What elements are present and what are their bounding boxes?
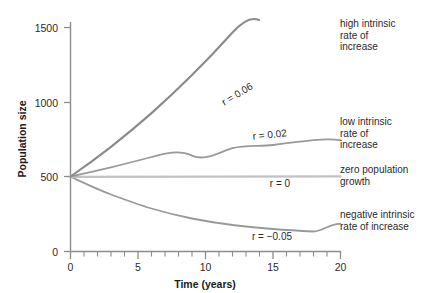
- y-axis-title: Population size: [16, 100, 28, 177]
- x-tick-marks: [71, 252, 341, 260]
- curve-group: [71, 19, 341, 232]
- curve-label-negative: r = −0.05: [252, 231, 292, 242]
- curve-label-zero: r = 0: [270, 178, 291, 189]
- x-tick-label-15: 15: [267, 261, 279, 273]
- annotation-high-intrinsic: high intrinsic rate of increase: [340, 18, 396, 53]
- curve-low-r: [71, 139, 341, 176]
- chart-figure: 1500 1000 500 0: [0, 0, 431, 293]
- y-tick-labels: 1500 1000 500 0: [35, 22, 59, 258]
- y-tick-label-1500: 1500: [35, 22, 59, 34]
- y-tick-label-0: 0: [52, 246, 58, 258]
- axis-group: [71, 22, 342, 252]
- annotation-negative-intrinsic: negative intrinsic rate of increase: [340, 209, 414, 232]
- x-tick-labels: 0 5 10 15 20: [68, 261, 347, 273]
- y-tick-label-1000: 1000: [35, 97, 59, 109]
- x-axis-title: Time (years): [174, 278, 236, 290]
- curve-label-low: r = 0.02: [252, 127, 288, 142]
- x-tick-label-20: 20: [335, 261, 347, 273]
- curve-label-high: r = 0.06: [220, 80, 255, 107]
- y-tick-marks: [64, 28, 71, 252]
- curve-negative-r: [71, 177, 341, 232]
- y-tick-label-500: 500: [40, 171, 58, 183]
- x-tick-label-5: 5: [135, 261, 141, 273]
- annotation-low-intrinsic: low intrinsic rate of increase: [340, 116, 392, 151]
- x-tick-label-0: 0: [68, 261, 74, 273]
- x-tick-label-10: 10: [200, 261, 212, 273]
- annotation-zero-growth: zero population growth: [340, 164, 408, 187]
